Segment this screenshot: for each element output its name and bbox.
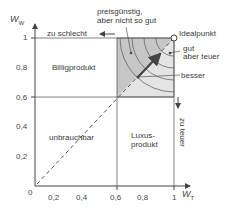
label-preisguenstig-2: aber nicht so gut bbox=[97, 16, 156, 25]
y-tick-0-6: 0,6 bbox=[16, 93, 27, 102]
x-tick-0-4: 0,4 bbox=[76, 193, 87, 202]
label-besser: besser bbox=[181, 71, 205, 80]
label-preisguenstig-1: preisgünstig, bbox=[97, 7, 142, 16]
y-axis-label: WW bbox=[10, 14, 24, 26]
y-tick-1: 1 bbox=[23, 33, 27, 42]
y-tick-0-4: 0,4 bbox=[16, 122, 27, 131]
y-tick-0-2: 0,2 bbox=[16, 152, 27, 161]
region-luxus-line2: produkt bbox=[131, 140, 158, 149]
x-tick-0-6: 0,6 bbox=[110, 193, 121, 202]
ideal-point bbox=[171, 35, 177, 41]
x-tick-1: 1 bbox=[172, 193, 176, 202]
region-luxus-line1: Luxus- bbox=[131, 131, 155, 140]
label-idealpunkt: Idealpunkt bbox=[179, 29, 216, 38]
label-zu-teuer: zu teuer bbox=[178, 118, 187, 147]
region-unbrauchbar: unbrauchbar bbox=[49, 133, 94, 142]
origin-label: 0 bbox=[28, 188, 32, 197]
label-zu-schlecht: zu schlecht bbox=[47, 29, 87, 38]
x-tick-0-8: 0,8 bbox=[137, 193, 148, 202]
x-tick-0-2: 0,2 bbox=[48, 193, 59, 202]
x-axis-label: WT bbox=[182, 189, 194, 201]
y-tick-0-8: 0,8 bbox=[16, 63, 27, 72]
region-billigprodukt: Billigprodukt bbox=[52, 63, 96, 72]
label-aber-teuer: aber teuer bbox=[183, 52, 219, 61]
